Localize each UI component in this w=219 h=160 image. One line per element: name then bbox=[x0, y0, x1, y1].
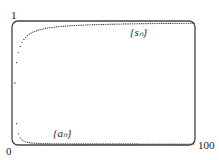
plot-frame bbox=[12, 21, 195, 145]
series-s-n bbox=[14, 23, 194, 84]
y-tick-1: 1 bbox=[11, 10, 17, 21]
plot-area bbox=[0, 0, 219, 160]
series-a-n bbox=[14, 82, 194, 144]
series-label-a-n: {aₙ} bbox=[53, 128, 71, 139]
origin-tick-0: 0 bbox=[6, 146, 12, 157]
x-tick-100: 100 bbox=[198, 140, 215, 151]
series-label-s-n: {sₙ} bbox=[130, 27, 147, 38]
